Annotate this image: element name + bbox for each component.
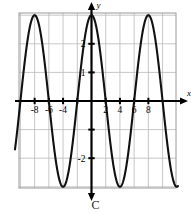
figure-caption: C: [0, 198, 191, 213]
y-tick-label: 2: [81, 39, 86, 49]
x-tick-label: 6: [132, 105, 137, 115]
x-axis-label: x: [186, 88, 191, 98]
x-tick-label: 8: [146, 105, 151, 115]
x-tick-label: -4: [59, 105, 67, 115]
graph-figure: -8-6-4246821-2 x y C: [0, 0, 191, 214]
y-tick-label: 1: [81, 68, 86, 78]
y-axis-label: y: [96, 0, 101, 10]
x-tick-label: -8: [31, 105, 39, 115]
x-tick-label: 4: [118, 105, 123, 115]
y-tick-label: -2: [78, 154, 86, 164]
x-tick-label: 2: [103, 105, 108, 115]
coordinate-plane: -8-6-4246821-2 x y: [0, 0, 191, 214]
x-tick-label: -6: [45, 105, 53, 115]
